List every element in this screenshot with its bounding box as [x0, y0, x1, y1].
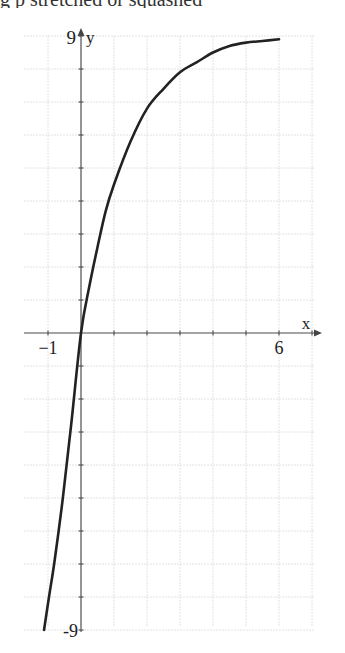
function-graph: −169-9xy [0, 0, 345, 653]
x-axis-label: x [302, 314, 311, 333]
x-tick-label: 6 [275, 338, 284, 358]
function-curve [44, 39, 279, 630]
x-tick-label: −1 [38, 338, 57, 358]
y-tick-label: -9 [63, 621, 78, 641]
y-axis-arrow-icon [78, 28, 85, 36]
y-axis-label: y [86, 28, 95, 47]
axis-labels: −169-9xy [38, 27, 310, 641]
x-axis-arrow-icon [314, 330, 322, 337]
y-tick-label: 9 [67, 27, 77, 48]
axes [24, 28, 322, 632]
